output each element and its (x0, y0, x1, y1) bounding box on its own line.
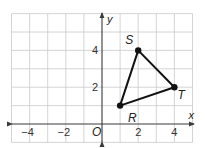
vertex-s-point (135, 47, 141, 53)
vertex-t-label: T (177, 88, 186, 102)
triangle-vertices: RST (117, 33, 186, 124)
vertex-s-label: S (125, 33, 133, 47)
edge-tr (120, 87, 174, 105)
y-axis-label: y (106, 13, 114, 25)
axis-names: x y O (92, 13, 195, 139)
x-tick-label: 4 (171, 126, 177, 138)
y-tick-label: 4 (92, 44, 98, 56)
x-tick-label: −4 (21, 126, 34, 138)
origin-label: O (92, 125, 101, 139)
vertex-r-label: R (128, 111, 137, 125)
x-tick-label: −2 (58, 126, 71, 138)
coordinate-plane: −4−22424 x y O RST (0, 0, 205, 148)
x-axis-label: x (188, 109, 195, 121)
edge-rs (120, 50, 138, 105)
triangle-rst (120, 50, 174, 105)
axes (12, 13, 194, 142)
y-tick-label: 2 (92, 81, 98, 93)
x-tick-label: 2 (135, 126, 141, 138)
vertex-r-point (117, 102, 123, 108)
